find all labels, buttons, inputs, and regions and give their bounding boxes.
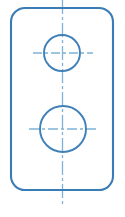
centerlines-group	[29, 0, 98, 206]
technical-drawing-canvas	[0, 0, 125, 217]
drawing-svg-root	[0, 0, 125, 217]
